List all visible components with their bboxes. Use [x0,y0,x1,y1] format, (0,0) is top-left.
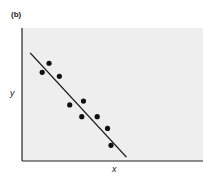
data-point [67,102,72,107]
data-point [40,70,45,75]
data-point [46,61,51,66]
data-point [105,126,110,131]
data-point [108,143,113,148]
data-point [57,74,62,79]
data-point [95,114,100,119]
data-point [81,98,86,103]
data-point [79,114,84,119]
scatter-plot [0,0,208,179]
